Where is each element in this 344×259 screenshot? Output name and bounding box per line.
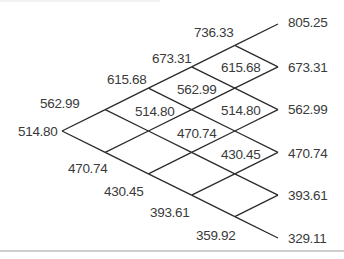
node-label-3-3: 393.61 <box>150 206 190 220</box>
node-label-5-2: 562.99 <box>288 103 328 117</box>
node-label-0-0: 514.80 <box>18 125 58 139</box>
tree-edge <box>62 110 105 131</box>
node-label-1-1: 470.74 <box>68 162 108 176</box>
node-label-4-0: 736.33 <box>194 26 234 40</box>
node-label-1-0: 562.99 <box>40 97 80 111</box>
node-label-5-3: 470.74 <box>288 147 328 161</box>
tree-edge <box>105 131 148 152</box>
node-label-3-2: 470.74 <box>177 127 217 141</box>
node-label-4-1: 615.68 <box>221 61 261 75</box>
tree-edge <box>235 217 278 238</box>
tree-edge <box>62 131 105 152</box>
tree-edge <box>192 174 235 195</box>
node-label-4-2: 514.80 <box>221 104 261 118</box>
tree-edge <box>192 195 235 216</box>
tree-edge <box>235 174 278 195</box>
tree-edge <box>148 174 191 195</box>
node-label-3-1: 562.99 <box>177 83 217 97</box>
node-label-3-0: 673.31 <box>152 52 192 66</box>
node-label-2-1: 514.80 <box>135 105 175 119</box>
tree-edge <box>235 24 278 45</box>
node-label-5-1: 673.31 <box>288 61 328 75</box>
node-label-5-5: 329.11 <box>288 232 327 246</box>
tree-edge <box>105 152 148 173</box>
node-label-5-0: 805.25 <box>288 16 328 30</box>
node-label-5-4: 393.61 <box>288 189 328 203</box>
tree-edge <box>148 152 191 173</box>
node-label-4-3: 430.45 <box>221 148 261 162</box>
node-label-2-0: 615.68 <box>107 73 147 87</box>
node-label-2-2: 430.45 <box>104 185 144 199</box>
tree-edge <box>235 195 278 216</box>
bottom-divider <box>0 250 344 252</box>
node-label-4-4: 359.92 <box>196 229 236 243</box>
